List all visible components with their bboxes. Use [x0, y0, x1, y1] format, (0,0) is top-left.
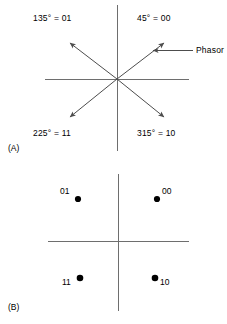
- phasor-vector-225: [70, 79, 117, 117]
- phasor-label-225: 225° = 11: [33, 128, 71, 138]
- phasor-vector-315: [117, 79, 164, 117]
- constellation-dot-11: [77, 275, 84, 282]
- panel-tag-a: (A): [8, 143, 19, 153]
- constellation-dot-10: [152, 275, 159, 282]
- constellation-dot-00: [154, 196, 160, 202]
- phasor-label-315: 315° = 10: [137, 128, 176, 138]
- constellation-label-10: 10: [160, 277, 169, 287]
- constellation-label-11: 11: [62, 277, 71, 287]
- phasor-callout-label: Phasor: [196, 45, 224, 55]
- phasor-label-45: 45° = 00: [137, 13, 171, 23]
- constellation-dot-01: [75, 196, 81, 202]
- phasor-vector-135: [70, 43, 117, 79]
- figure-canvas: 135° = 01 45° = 00 225° = 11 315° = 10 P…: [0, 0, 227, 324]
- phasor-vector-45: [117, 43, 164, 79]
- phasor-label-135: 135° = 01: [33, 13, 72, 23]
- constellation-label-01: 01: [60, 186, 69, 196]
- panel-tag-b: (B): [8, 302, 19, 312]
- panel-b-points: [75, 196, 160, 281]
- figure-graphics: [0, 0, 227, 324]
- constellation-label-00: 00: [162, 186, 171, 196]
